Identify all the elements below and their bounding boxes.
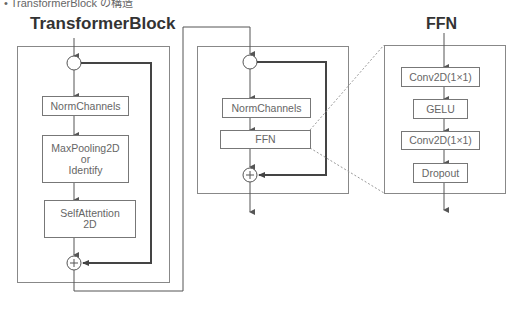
maxpooling-label: MaxPooling2D [51, 143, 119, 154]
ffn-box: FFN [220, 130, 311, 149]
conv2d-box-2: Conv2D(1×1) [401, 131, 480, 150]
split-node-middle [243, 55, 257, 69]
dropout-box: Dropout [413, 163, 468, 183]
self-attention-box: SelfAttention 2D [44, 200, 136, 238]
identify-label: Identify [69, 165, 103, 176]
split-node-left [67, 56, 81, 70]
or-label: or [81, 154, 90, 165]
norm-channels-box-left: NormChannels [42, 96, 129, 116]
norm-channels-box-middle: NormChannels [222, 98, 311, 118]
conv2d-box-1: Conv2D(1×1) [401, 67, 480, 87]
gelu-box: GELU [413, 99, 468, 119]
maxpooling-box: MaxPooling2D or Identify [42, 135, 129, 183]
